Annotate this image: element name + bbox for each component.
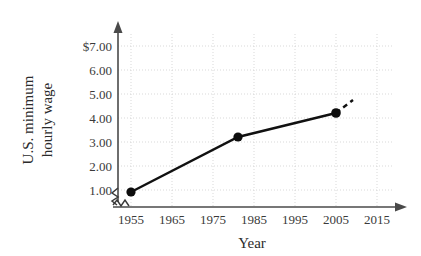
y-axis-title-line2: hourly wage	[39, 82, 55, 157]
ytick-label-6: 6.00	[89, 63, 112, 78]
axis-break-symbol	[112, 188, 129, 206]
ytick-label-1: 1.00	[89, 183, 112, 198]
x-axis-title: Year	[238, 235, 266, 251]
xtick-label-2015: 2015	[364, 212, 390, 227]
data-series	[126, 100, 353, 197]
x-axis-break-zigzag	[113, 200, 129, 206]
x-axis-arrowhead	[395, 203, 407, 212]
ytick-label-5: 5.00	[89, 87, 112, 102]
x-axis	[113, 203, 407, 212]
data-point-1981	[233, 132, 242, 141]
xtick-label-1965: 1965	[159, 212, 185, 227]
xtick-label-1975: 1975	[200, 212, 226, 227]
chart-container: 1.00 2.00 3.00 4.00 5.00 6.00 $7.00 1955…	[0, 0, 421, 256]
horizontal-gridlines	[118, 46, 392, 190]
data-point-2005	[331, 108, 341, 118]
xtick-label-1985: 1985	[241, 212, 267, 227]
vertical-gridlines	[131, 34, 377, 207]
ytick-label-2: 2.00	[89, 159, 112, 174]
y-axis-title-line1: U.S. minimum	[20, 75, 36, 164]
x-tick-labels: 1955 1965 1975 1985 1995 2005 2015	[118, 212, 390, 227]
line-chart: 1.00 2.00 3.00 4.00 5.00 6.00 $7.00 1955…	[0, 0, 421, 256]
xtick-label-1995: 1995	[282, 212, 308, 227]
xtick-label-2005: 2005	[323, 212, 349, 227]
data-point-1955	[126, 187, 135, 196]
ytick-label-3: 3.00	[89, 135, 112, 150]
y-axis-arrowhead	[114, 21, 123, 33]
ytick-label-7: $7.00	[83, 39, 112, 54]
xtick-label-1955: 1955	[118, 212, 144, 227]
series-line-path	[131, 113, 336, 192]
y-axis	[114, 21, 123, 202]
ytick-label-4: 4.00	[89, 111, 112, 126]
y-tick-labels: 1.00 2.00 3.00 4.00 5.00 6.00 $7.00	[83, 39, 112, 198]
y-axis-title: U.S. minimum hourly wage	[20, 75, 55, 164]
